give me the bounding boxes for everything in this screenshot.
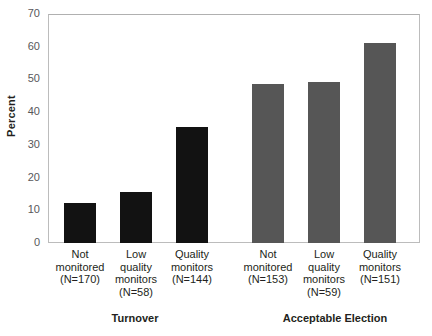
bar xyxy=(252,84,284,243)
group-title-acceptable-election: Acceptable Election xyxy=(255,312,415,324)
y-axis-tick-label: 30 xyxy=(14,138,40,150)
x-axis-label-line: monitors xyxy=(343,261,417,274)
y-axis-tick-label: 10 xyxy=(14,203,40,215)
group-title-turnover: Turnover xyxy=(60,312,210,324)
x-axis-category-label: Qualitymonitors(N=144) xyxy=(155,248,229,286)
y-axis-tick-label: 40 xyxy=(14,105,40,117)
bar xyxy=(364,43,396,243)
x-axis-label-line: (N=58) xyxy=(99,286,173,299)
bar xyxy=(308,82,340,243)
x-axis-category-label: Qualitymonitors(N=151) xyxy=(343,248,417,286)
y-axis-tick-label: 0 xyxy=(14,236,40,248)
x-axis-label-line: (N=151) xyxy=(343,273,417,286)
y-axis-tick-label: 70 xyxy=(14,7,40,19)
bar-chart: Percent 706050403020100 Notmonitored(N=1… xyxy=(0,0,432,336)
bar xyxy=(64,203,96,243)
y-axis-tick-label: 60 xyxy=(14,40,40,52)
y-axis-tick-label: 20 xyxy=(14,171,40,183)
x-axis-label-line: (N=59) xyxy=(287,286,361,299)
x-axis-label-line: Quality xyxy=(343,248,417,261)
y-axis-tick-label: 50 xyxy=(14,72,40,84)
bar xyxy=(176,127,208,243)
bars-layer xyxy=(48,14,420,243)
x-axis-label-line: (N=144) xyxy=(155,273,229,286)
x-axis-label-line: Quality xyxy=(155,248,229,261)
x-axis-label-line: monitors xyxy=(155,261,229,274)
bar xyxy=(120,192,152,243)
